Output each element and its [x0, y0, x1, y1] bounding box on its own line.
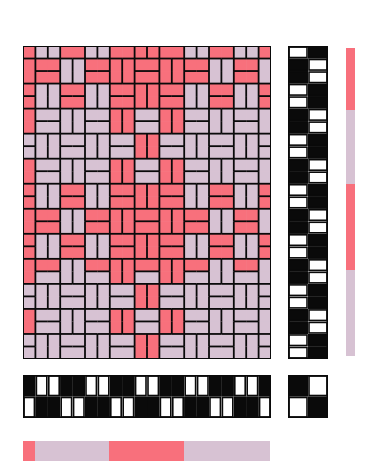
treadling-cell-filled — [308, 234, 328, 247]
warp-float-cell — [60, 109, 73, 122]
threading-cell-filled — [159, 375, 171, 397]
warp-float-cell — [35, 196, 48, 209]
warp-float-cell — [73, 71, 86, 84]
weft-float-cell — [60, 46, 73, 59]
treadling-cell-filled — [288, 159, 308, 172]
warp-float-cell — [246, 296, 259, 309]
weft-float-cell — [60, 296, 73, 309]
warp-float-cell — [60, 59, 73, 72]
warp-float-cell — [135, 296, 148, 309]
weft-float-cell — [135, 209, 148, 222]
warp-float-cell — [197, 234, 210, 247]
weft-float-cell — [184, 321, 197, 334]
threading-cell-filled — [184, 397, 196, 419]
weft-float-cell — [172, 234, 185, 247]
weft-float-cell — [23, 296, 36, 309]
warp-float-cell — [35, 334, 48, 347]
warp-float-cell — [122, 209, 135, 222]
threading-cell-filled — [221, 375, 233, 397]
warp-float-cell — [209, 221, 222, 234]
weft-float-cell — [172, 184, 185, 197]
warp-float-cell — [35, 234, 48, 247]
warp-float-cell — [147, 46, 160, 59]
weft-float-cell — [259, 134, 271, 147]
warp-float-cell — [259, 221, 271, 234]
weft-float-cell — [209, 234, 222, 247]
warp-float-cell — [197, 196, 210, 209]
warp-float-cell — [23, 259, 36, 272]
warp-float-cell — [60, 71, 73, 84]
threading-cell-filled — [60, 375, 72, 397]
weft-float-cell — [35, 71, 48, 84]
threading-canvas — [23, 375, 271, 418]
warp-float-cell — [147, 296, 160, 309]
weft-float-cell — [221, 46, 234, 59]
weft-float-cell — [147, 109, 160, 122]
warp-float-cell — [23, 221, 36, 234]
weft-float-cell — [135, 109, 148, 122]
weft-float-cell — [197, 159, 210, 172]
warp-float-cell — [221, 221, 234, 234]
weft-float-cell — [48, 109, 61, 122]
weft-float-cell — [23, 234, 36, 247]
warp-float-cell — [221, 71, 234, 84]
weft-float-cell — [234, 259, 247, 272]
warp-float-cell — [147, 334, 160, 347]
weft-float-cell — [85, 259, 98, 272]
weft-float-cell — [110, 184, 123, 197]
weft-float-cell — [159, 246, 172, 259]
warp-float-cell — [73, 309, 86, 322]
warp-float-cell — [122, 321, 135, 334]
weft-float-cell — [48, 271, 61, 284]
weft-float-cell — [23, 96, 36, 109]
treadling-cell-filled — [308, 196, 328, 209]
warp-float-cell — [48, 96, 61, 109]
weft-float-cell — [135, 71, 148, 84]
weft-float-cell — [246, 159, 259, 172]
weft-float-cell — [172, 96, 185, 109]
weft-float-cell — [85, 321, 98, 334]
threading-cell-filled — [135, 397, 147, 419]
weft-float-cell — [48, 309, 61, 322]
weft-float-cell — [73, 134, 86, 147]
warp-float-cell — [135, 334, 148, 347]
warp-float-cell — [23, 209, 36, 222]
weft-float-cell — [23, 334, 36, 347]
warp-float-cell — [48, 246, 61, 259]
warp-float-cell — [48, 346, 61, 359]
weft-float-cell — [48, 159, 61, 172]
warp-float-cell — [73, 59, 86, 72]
warp-float-cell — [122, 171, 135, 184]
weft-float-cell — [85, 71, 98, 84]
weft-float-cell — [221, 146, 234, 159]
treadling-grid — [288, 46, 328, 359]
weft-float-cell — [73, 146, 86, 159]
warp-float-cell — [159, 321, 172, 334]
weft-float-cell — [73, 346, 86, 359]
weft-float-cell — [147, 171, 160, 184]
weft-float-cell — [246, 321, 259, 334]
weft-float-cell — [221, 334, 234, 347]
warp-float-cell — [147, 234, 160, 247]
warp-float-cell — [135, 134, 148, 147]
weft-float-cell — [48, 321, 61, 334]
warp-float-cell — [197, 184, 210, 197]
weft-float-cell — [234, 271, 247, 284]
weft-float-cell — [85, 221, 98, 234]
weft-float-cell — [221, 96, 234, 109]
weft-float-cell — [147, 321, 160, 334]
warp-float-cell — [122, 59, 135, 72]
treadling-cell-filled — [308, 96, 328, 109]
weft-float-cell — [184, 159, 197, 172]
weft-float-cell — [97, 259, 110, 272]
warp-float-cell — [184, 46, 197, 59]
weft-float-cell — [209, 84, 222, 97]
weft-float-cell — [172, 334, 185, 347]
weft-float-cell — [85, 309, 98, 322]
weft-float-cell — [122, 46, 135, 59]
warp-float-cell — [60, 121, 73, 134]
weft-float-cell — [48, 59, 61, 72]
weft-float-cell — [147, 221, 160, 234]
warp-float-cell — [246, 196, 259, 209]
weft-float-cell — [259, 346, 271, 359]
